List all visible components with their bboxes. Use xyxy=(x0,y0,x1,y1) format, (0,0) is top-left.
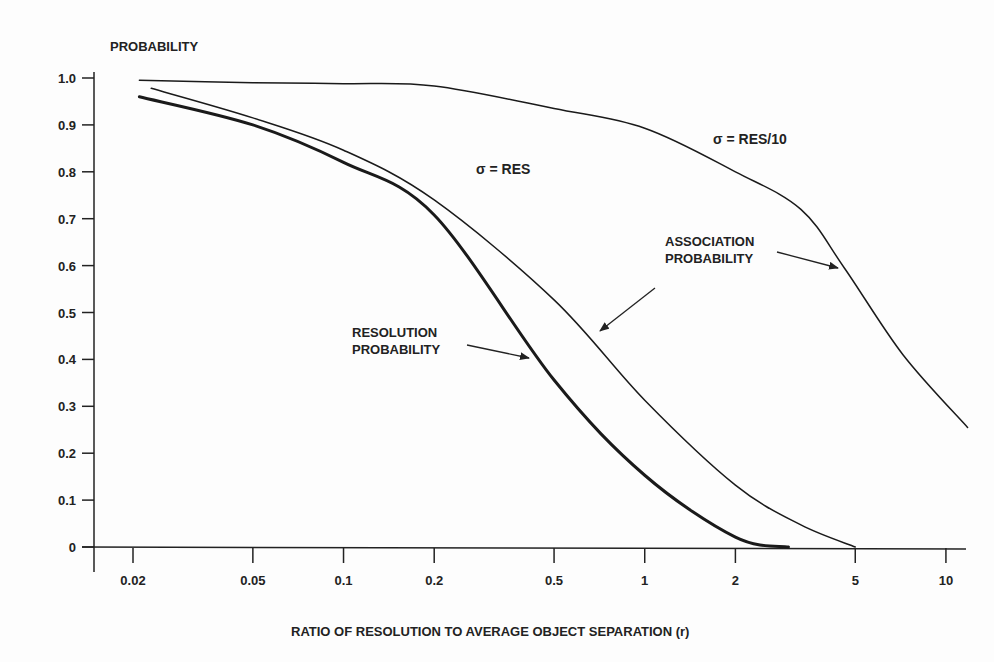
x-tick-label: 2 xyxy=(732,573,739,588)
curve-sigma-res xyxy=(151,88,855,547)
y-tick-label: 0.6 xyxy=(58,259,76,274)
y-axis-title: PROBABILITY xyxy=(110,39,198,54)
curve-resolution-probability xyxy=(139,97,788,547)
x-tick-label: 0.5 xyxy=(545,573,563,588)
y-tick-label: 0.7 xyxy=(58,212,76,227)
x-tick-label: 1 xyxy=(641,573,648,588)
x-tick-label: 5 xyxy=(852,573,859,588)
x-tick-label: 0.05 xyxy=(240,573,265,588)
curve-sigma-res10 xyxy=(139,80,967,427)
y-tick-label: 0.4 xyxy=(58,352,77,367)
association-label-line1: ASSOCIATION xyxy=(665,234,754,249)
y-tick-label: 0.3 xyxy=(58,399,76,414)
x-axis-ticks: 0.020.050.10.20.512510 xyxy=(120,548,953,588)
arrow-association-to-res10 xyxy=(777,252,838,268)
x-tick-label: 0.1 xyxy=(334,573,352,588)
y-tick-label: 0.2 xyxy=(58,446,76,461)
resolution-label-line2: PROBABILITY xyxy=(352,342,440,357)
probability-chart: 00.10.20.30.40.50.60.70.80.91.0 0.020.05… xyxy=(0,0,994,662)
y-tick-label: 1.0 xyxy=(58,71,76,86)
y-tick-label: 0.1 xyxy=(58,493,76,508)
resolution-label-line1: RESOLUTION xyxy=(352,325,437,340)
curves xyxy=(139,80,967,547)
y-tick-label: 0.9 xyxy=(58,118,76,133)
arrow-association-to-res xyxy=(600,288,655,331)
x-axis-title: RATIO OF RESOLUTION TO AVERAGE OBJECT SE… xyxy=(291,624,689,639)
x-tick-label: 0.02 xyxy=(120,573,145,588)
y-tick-label: 0.8 xyxy=(58,165,76,180)
y-tick-label: 0 xyxy=(69,540,76,555)
x-tick-label: 10 xyxy=(939,573,953,588)
arrow-resolution xyxy=(467,345,529,358)
association-label-line2: PROBABILITY xyxy=(665,251,753,266)
x-tick-label: 0.2 xyxy=(425,573,443,588)
y-tick-label: 0.5 xyxy=(58,306,76,321)
y-axis-ticks: 00.10.20.30.40.50.60.70.80.91.0 xyxy=(58,71,94,555)
sigma-res-label: σ = RES xyxy=(476,161,530,177)
x-axis xyxy=(82,547,966,549)
sigma-res10-label: σ = RES/10 xyxy=(713,131,787,147)
